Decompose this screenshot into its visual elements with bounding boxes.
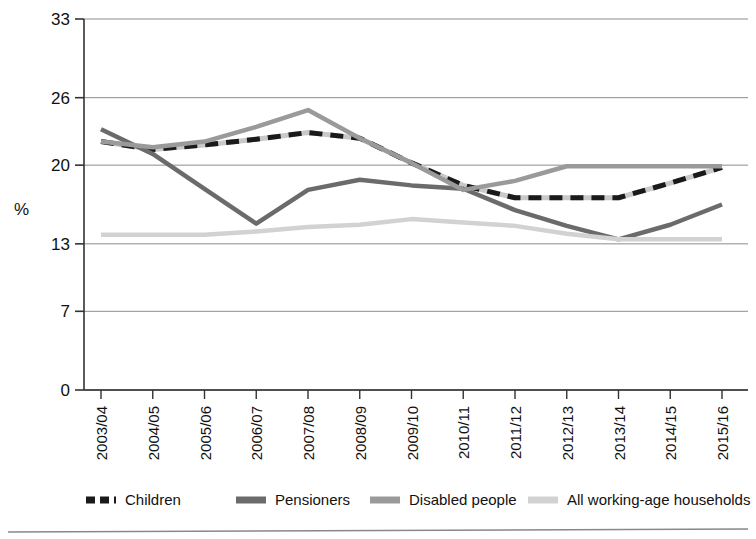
x-tick-label: 2009/10 [404,406,421,460]
chart-legend: ChildrenPensionersDisabled peopleAll wor… [86,491,750,508]
y-tick-label: 0 [61,381,70,400]
footer-divider [8,529,748,532]
line-chart: 0713202633 2003/042004/052005/062006/072… [0,0,756,539]
x-tick-label: 2014/15 [662,406,679,460]
legend-label-pensioners: Pensioners [275,491,350,508]
x-tick-label: 2015/16 [714,406,731,460]
x-tick-label: 2005/06 [197,406,214,460]
chart-container: 0713202633 2003/042004/052005/062006/072… [0,0,756,539]
x-axis-ticks: 2003/042004/052005/062006/072007/082008/… [93,390,731,460]
axes [84,19,748,390]
y-tick-label: 13 [51,235,70,254]
x-tick-label: 2003/04 [93,406,110,460]
x-tick-label: 2013/14 [611,406,628,460]
x-tick-label: 2008/09 [352,406,369,460]
legend-label-children: Children [125,491,181,508]
x-tick-label: 2004/05 [145,406,162,460]
x-tick-label: 2012/13 [559,406,576,460]
y-axis-title: % [14,200,29,219]
y-tick-label: 20 [51,156,70,175]
x-tick-label: 2007/08 [300,406,317,460]
x-tick-label: 2011/12 [507,406,524,459]
series-line-disabled-people [101,110,722,190]
y-axis-ticks: 0713202633 [51,10,84,400]
gridlines [84,19,748,390]
y-tick-label: 26 [51,89,70,108]
series-lines [101,110,722,239]
x-tick-label: 2006/07 [248,406,265,460]
y-tick-label: 33 [51,10,70,29]
legend-label-all-working-age-households: All working-age households [567,491,750,508]
legend-label-disabled-people: Disabled people [409,491,517,508]
x-tick-label: 2010/11 [455,406,472,459]
y-tick-label: 7 [61,302,70,321]
